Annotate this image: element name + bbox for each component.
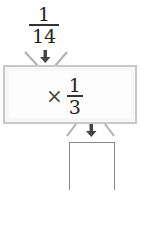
down-arrow-icon: [40, 50, 51, 63]
answer-box[interactable]: [69, 142, 115, 190]
down-arrow-icon: [86, 124, 97, 137]
operation-numerator: 1: [69, 75, 81, 95]
times-sign: ×: [46, 84, 63, 108]
operation-expression: × 1 3: [46, 75, 83, 117]
operation-fraction: 1 3: [67, 75, 83, 117]
operation-denominator: 3: [69, 97, 81, 117]
